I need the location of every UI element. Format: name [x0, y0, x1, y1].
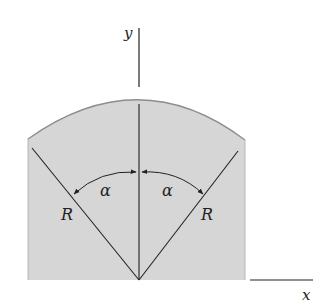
- sector-diagram: y x α α R R: [0, 0, 315, 308]
- angle-label-right: α: [162, 181, 173, 200]
- y-axis-label: y: [123, 24, 133, 42]
- x-axis-label: x: [302, 286, 311, 304]
- shaded-region: [28, 100, 245, 280]
- radius-label-left: R: [60, 205, 73, 224]
- radius-label-right: R: [200, 205, 213, 224]
- angle-label-left: α: [100, 181, 111, 200]
